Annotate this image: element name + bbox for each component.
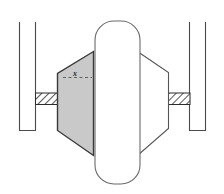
right-vertical-rail	[190, 22, 206, 131]
figure-canvas: x	[0, 0, 224, 194]
left-shaded-hub-body	[58, 52, 94, 156]
left-vertical-rail	[20, 22, 36, 131]
right-hub-body	[138, 52, 169, 156]
dimension-label-x: x	[73, 70, 77, 78]
technical-drawing	[0, 0, 224, 194]
center-wheel-tire	[95, 21, 140, 184]
left-hatched-bar	[36, 93, 58, 105]
right-hatched-bar	[168, 93, 190, 105]
